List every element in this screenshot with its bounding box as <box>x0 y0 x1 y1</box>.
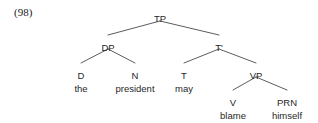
tree-edge-tp-dp <box>108 21 160 35</box>
tree-edge-tbar-vp <box>219 49 256 63</box>
tree-terminal-blame: blame <box>220 110 246 121</box>
tree-edge-tp-tbar <box>160 21 219 35</box>
tree-node-n: N <box>132 70 139 81</box>
tree-node-tp: TP <box>154 13 166 24</box>
syntax-tree-figure: (98) TPDPT'DNTVPVPRN thepresidentmayblam… <box>0 0 318 123</box>
tree-node-prn: PRN <box>277 97 297 108</box>
tree-terminal-may: may <box>175 83 193 94</box>
tree-terminal-president: president <box>115 83 154 94</box>
tree-edge-tbar-t <box>184 49 219 63</box>
tree-node-dp: DP <box>101 42 114 53</box>
tree-node-d: D <box>78 70 85 81</box>
tree-node-t: T <box>181 70 187 81</box>
tree-terminal-the: the <box>74 83 87 94</box>
tree-node-vp: VP <box>250 70 263 81</box>
tree-terminal-himself: himself <box>272 110 302 121</box>
tree-node-tbar: T' <box>215 42 223 53</box>
tree-node-v: V <box>230 97 236 108</box>
